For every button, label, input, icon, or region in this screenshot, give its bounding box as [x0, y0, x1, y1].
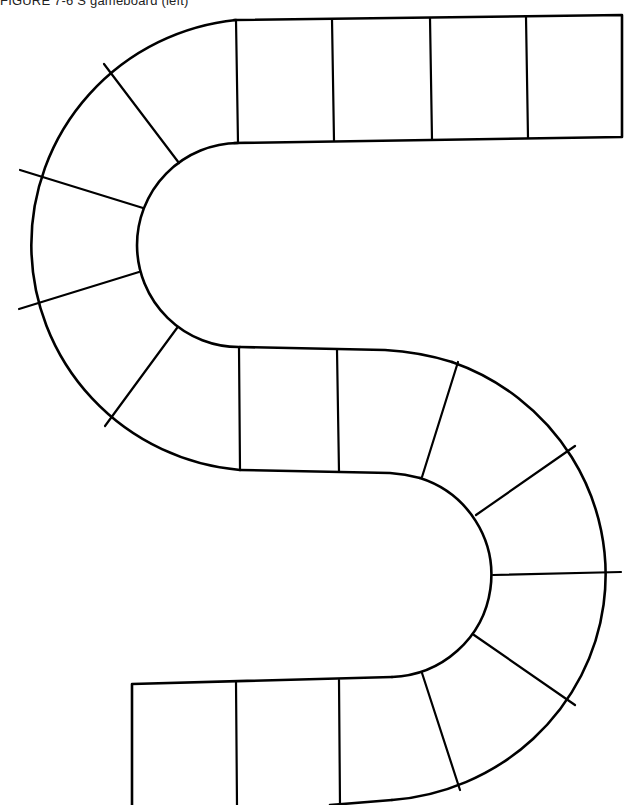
space-divider: [476, 446, 575, 515]
right-arc-section: [392, 362, 621, 800]
space-divider: [239, 348, 240, 470]
space-divider: [332, 19, 334, 141]
space-divider: [474, 635, 575, 705]
left-arc-section: [19, 20, 240, 470]
space-divider: [105, 328, 177, 426]
space-divider: [236, 682, 237, 805]
space-divider: [339, 680, 340, 805]
bottom-straight-section: [132, 677, 392, 805]
space-divider: [104, 64, 179, 163]
space-divider: [337, 350, 339, 472]
gameboard: [0, 0, 631, 805]
space-divider: [236, 20, 238, 143]
top-straight-section: [234, 15, 622, 143]
space-divider: [422, 673, 460, 790]
space-divider: [493, 572, 621, 575]
space-divider: [430, 18, 432, 140]
space-divider: [422, 362, 458, 477]
space-divider: [526, 17, 528, 138]
middle-straight-section: [239, 347, 452, 478]
